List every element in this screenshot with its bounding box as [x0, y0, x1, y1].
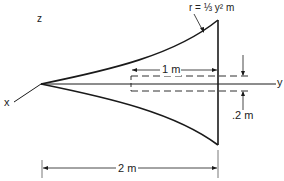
upper-profile-curve	[41, 20, 218, 84]
z-axis-label: z	[37, 14, 42, 24]
horn-diagram	[0, 0, 284, 181]
dim-2m-arrow-right	[212, 166, 217, 170]
dim-thickness-top-arrow	[241, 71, 245, 76]
two-meter-label: 2 m	[118, 163, 136, 174]
curve-equation-label: r = ⅓ y² m	[189, 3, 234, 13]
dim-thickness-bottom-arrow	[241, 91, 245, 96]
x-axis-line	[14, 84, 41, 102]
one-meter-label: 1 m	[162, 64, 180, 75]
dim-1m-arrow-right	[212, 68, 217, 72]
dim-1m-arrow-left	[132, 68, 137, 72]
lower-profile-curve	[41, 84, 218, 145]
x-axis-label: x	[4, 97, 10, 108]
y-axis-label: y	[277, 77, 283, 88]
thickness-label: .2 m	[232, 110, 253, 121]
dim-2m-arrow-left	[43, 166, 48, 170]
